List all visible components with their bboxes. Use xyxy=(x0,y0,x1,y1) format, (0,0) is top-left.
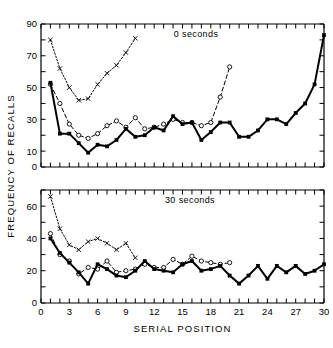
marker-filled-square xyxy=(190,259,194,263)
marker-open-circle xyxy=(105,124,109,128)
y-tick-label: 0 xyxy=(32,161,37,172)
serial-position-figure: 010305070900 seconds03691215182124273002… xyxy=(0,0,333,348)
marker-filled-square xyxy=(237,282,241,286)
x-tick-label: 3 xyxy=(67,306,72,317)
marker-filled-square xyxy=(152,267,156,271)
marker-filled-square xyxy=(115,138,119,142)
marker-filled-square xyxy=(275,117,279,121)
series-markers-30-item-list xyxy=(49,33,326,154)
marker-open-circle xyxy=(124,269,128,273)
marker-open-circle xyxy=(58,101,62,105)
marker-filled-square xyxy=(181,122,185,126)
marker-filled-square xyxy=(67,132,71,136)
marker-filled-square xyxy=(228,274,232,278)
marker-filled-square xyxy=(256,264,260,268)
marker-filled-square xyxy=(96,143,100,147)
y-axis-title: FREQUENCY OF RECALLS xyxy=(5,94,16,237)
series-markers-10-item-list xyxy=(48,36,137,102)
marker-filled-square xyxy=(218,121,222,125)
marker-filled-square xyxy=(256,129,260,133)
marker-filled-square xyxy=(247,135,251,139)
y-tick-label: 90 xyxy=(26,18,37,29)
marker-filled-square xyxy=(313,82,317,86)
marker-filled-square xyxy=(86,151,90,155)
series-markers-20-item-list xyxy=(48,65,231,141)
series-line-10-item-list xyxy=(50,38,135,100)
y-tick-label: 40 xyxy=(26,233,37,244)
marker-filled-square xyxy=(303,272,307,276)
marker-open-circle xyxy=(209,261,213,265)
marker-filled-square xyxy=(199,138,203,142)
marker-filled-square xyxy=(133,135,137,139)
marker-filled-square xyxy=(218,264,222,268)
panel-30-seconds: 036912151821242730020406030 seconds xyxy=(26,190,329,317)
marker-x xyxy=(114,63,118,67)
marker-filled-square xyxy=(49,237,53,241)
marker-open-circle xyxy=(199,124,203,128)
x-axis-title: SERIAL POSITION xyxy=(134,323,232,334)
marker-filled-square xyxy=(152,125,156,129)
marker-x xyxy=(86,239,90,243)
marker-x xyxy=(124,50,128,54)
marker-filled-square xyxy=(58,132,62,136)
y-tick-label: 30 xyxy=(26,114,37,125)
marker-filled-square xyxy=(58,251,62,255)
marker-open-circle xyxy=(133,116,137,120)
marker-filled-square xyxy=(294,264,298,268)
marker-filled-square xyxy=(171,114,175,118)
marker-filled-square xyxy=(247,274,251,278)
marker-x xyxy=(124,241,128,245)
marker-filled-square xyxy=(266,277,270,281)
marker-open-circle xyxy=(96,132,100,136)
marker-filled-square xyxy=(162,269,166,273)
marker-filled-square xyxy=(284,122,288,126)
marker-filled-square xyxy=(228,121,232,125)
marker-open-circle xyxy=(199,259,203,263)
marker-filled-square xyxy=(266,117,270,121)
series-line-30-item-list xyxy=(50,238,324,283)
marker-filled-square xyxy=(115,274,119,278)
series-line-10-item-list xyxy=(50,196,135,257)
marker-open-circle xyxy=(105,259,109,263)
x-tick-label: 21 xyxy=(234,306,245,317)
y-tick-label: 60 xyxy=(26,201,37,212)
marker-filled-square xyxy=(162,129,166,133)
marker-filled-square xyxy=(313,269,317,273)
marker-x xyxy=(105,241,109,245)
marker-x xyxy=(77,248,81,252)
marker-filled-square xyxy=(124,127,128,131)
marker-filled-square xyxy=(67,261,71,265)
marker-filled-square xyxy=(86,282,90,286)
marker-x xyxy=(95,236,99,240)
marker-filled-square xyxy=(105,144,109,148)
marker-filled-square xyxy=(190,121,194,125)
marker-open-circle xyxy=(190,254,194,258)
marker-filled-square xyxy=(209,130,213,134)
marker-filled-square xyxy=(133,269,137,273)
chart-canvas: 010305070900 seconds03691215182124273002… xyxy=(0,0,333,348)
x-tick-label: 18 xyxy=(206,306,217,317)
marker-x xyxy=(67,85,71,89)
x-tick-label: 27 xyxy=(290,306,301,317)
y-tick-label: 70 xyxy=(26,50,37,61)
marker-open-circle xyxy=(228,261,232,265)
marker-open-circle xyxy=(86,265,90,269)
marker-open-circle xyxy=(114,119,118,123)
marker-x xyxy=(114,248,118,252)
panel-annotation: 0 seconds xyxy=(174,29,219,39)
marker-x xyxy=(105,71,109,75)
marker-open-circle xyxy=(218,95,222,99)
marker-filled-square xyxy=(303,102,307,106)
marker-open-circle xyxy=(228,65,232,69)
marker-x xyxy=(67,243,71,247)
marker-open-circle xyxy=(171,257,175,261)
marker-filled-square xyxy=(294,111,298,115)
x-tick-label: 15 xyxy=(177,306,188,317)
marker-open-circle xyxy=(77,133,81,137)
marker-filled-square xyxy=(181,262,185,266)
marker-filled-square xyxy=(124,275,128,279)
x-tick-label: 9 xyxy=(123,306,128,317)
marker-filled-square xyxy=(275,264,279,268)
marker-open-circle xyxy=(209,120,213,124)
marker-filled-square xyxy=(322,33,326,37)
